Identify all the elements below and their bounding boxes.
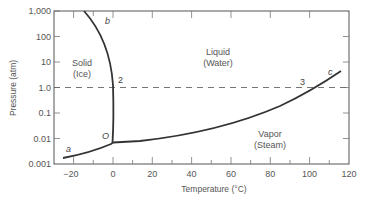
y-axis-title: Pressure (atm) <box>8 60 18 116</box>
region-solid-label: Solid <box>72 58 92 68</box>
point-label-o: O <box>102 131 109 141</box>
x-tick-label: 0 <box>110 169 115 179</box>
point-label-2: 2 <box>118 75 123 85</box>
y-tick-label: 0.1 <box>38 108 51 118</box>
x-tick-label: 20 <box>147 169 157 179</box>
x-tick-label: 120 <box>341 169 356 179</box>
y-tick-label: 0.01 <box>33 134 51 144</box>
point-label-3: 3 <box>300 77 305 87</box>
phase-diagram: 1,000 100 10 1.0 0.1 0.01 0.001 −20 0 20… <box>0 0 368 202</box>
region-liquid-sub: (Water) <box>203 58 233 68</box>
x-tick-label: 40 <box>187 169 197 179</box>
y-tick-label: 1.0 <box>38 83 51 93</box>
region-vapor-sub: (Steam) <box>254 140 286 150</box>
point-label-c: c <box>328 67 333 77</box>
x-tick-label: −20 <box>63 169 78 179</box>
y-tick-label: 1,000 <box>28 6 51 16</box>
x-tick-label: 100 <box>302 169 317 179</box>
y-tick-label: 100 <box>36 32 51 42</box>
x-tick-label: 60 <box>226 169 236 179</box>
y-tick-label: 10 <box>41 57 51 67</box>
x-tick-labels: −20 0 20 40 60 80 100 120 <box>63 169 356 179</box>
y-tick-labels: 1,000 100 10 1.0 0.1 0.01 0.001 <box>28 6 51 169</box>
point-label-a: a <box>66 144 71 154</box>
x-tick-label: 80 <box>265 169 275 179</box>
point-label-b: b <box>105 16 110 26</box>
region-liquid-label: Liquid <box>206 47 230 57</box>
region-vapor-label: Vapor <box>258 129 281 139</box>
y-tick-label: 0.001 <box>28 159 51 169</box>
region-solid-sub: (Ice) <box>73 69 91 79</box>
liquid-vapor-curve <box>113 71 341 143</box>
x-axis-title: Temperature (°C) <box>181 184 246 194</box>
